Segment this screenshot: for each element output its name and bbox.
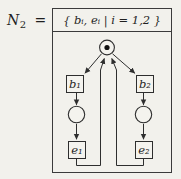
node-e1: e₁ xyxy=(68,141,86,159)
node-b2-label: b₂ xyxy=(139,77,151,91)
node-e2: e₂ xyxy=(135,141,153,159)
net-set-header: { bᵢ, eᵢ | i = 1,2 } xyxy=(53,9,171,32)
net-symbol: N xyxy=(7,12,20,28)
net-symbol-subscript: 2 xyxy=(20,19,27,30)
node-e1-label: e₁ xyxy=(71,143,82,157)
node-b1: b₁ xyxy=(66,75,84,93)
node-b2: b₂ xyxy=(136,75,154,93)
node-b1-label: b₁ xyxy=(69,77,81,91)
node-e2-label: e₂ xyxy=(138,143,149,157)
equation-label: N2 = xyxy=(7,12,47,30)
figure-petri-net: N2 = { bᵢ, eᵢ | i = 1,2 } b₁ xyxy=(0,0,181,179)
equals-sign: = xyxy=(35,12,47,28)
